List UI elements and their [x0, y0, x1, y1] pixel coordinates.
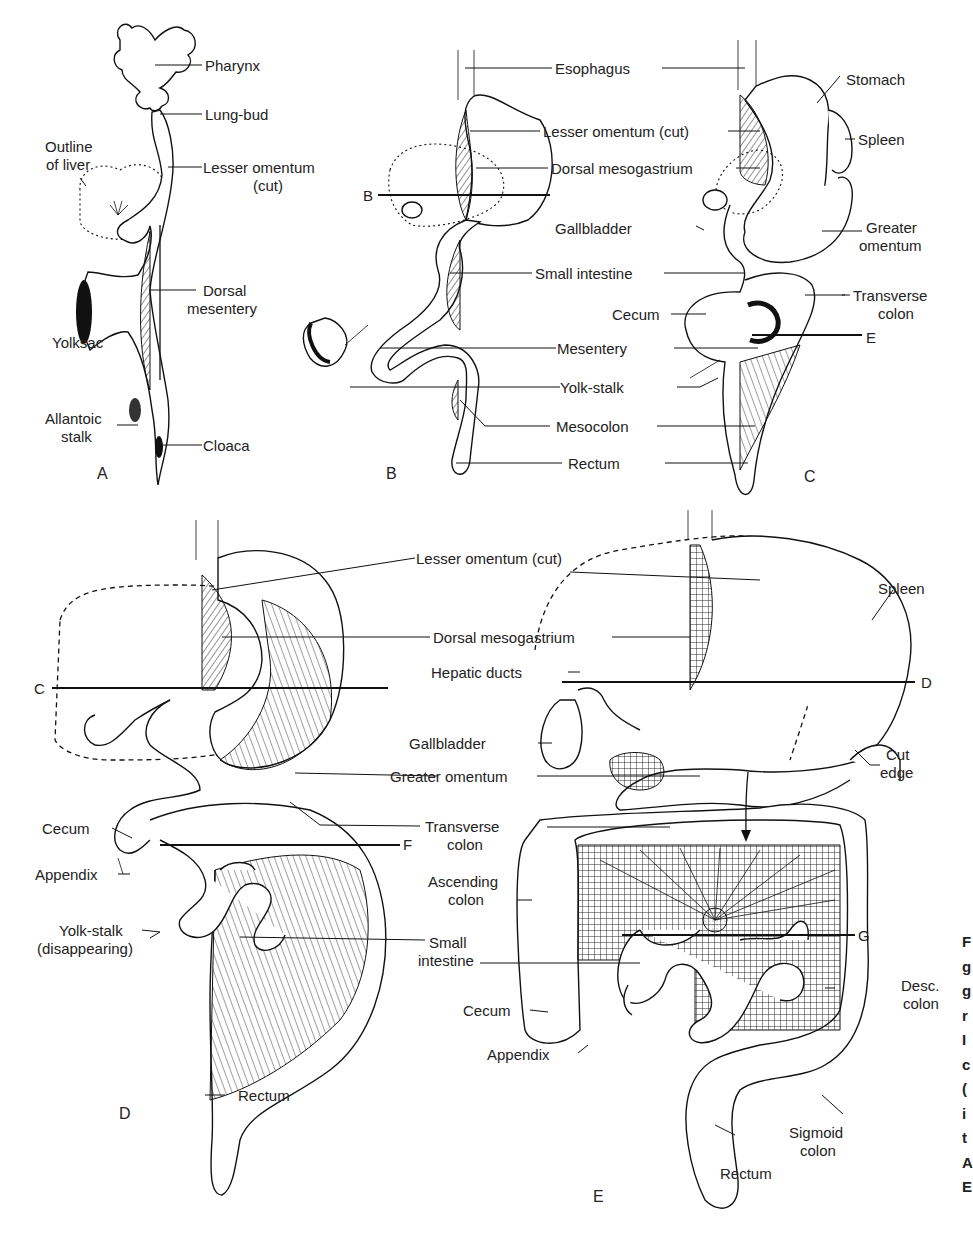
- label-ascending-colon-2: colon: [448, 891, 484, 908]
- label-pharynx: Pharynx: [205, 57, 260, 74]
- label-transverse-colon-c-1: Transverse: [853, 287, 927, 304]
- label-stomach: Stomach: [846, 71, 905, 88]
- label-lesser-omentum-a-2: (cut): [253, 177, 283, 194]
- label-mesocolon: Mesocolon: [556, 418, 629, 435]
- label-desc-colon-1: Desc.: [901, 977, 939, 994]
- label-cecum-c: Cecum: [612, 306, 660, 323]
- label-dorsal-mesogastrium-d: Dorsal mesogastrium: [433, 629, 575, 646]
- panel-b-drawing: [303, 50, 552, 474]
- label-hepatic-ducts: Hepatic ducts: [431, 664, 522, 681]
- panel-letter-a: A: [97, 465, 108, 483]
- label-appendix-e: Appendix: [487, 1046, 550, 1063]
- section-label-b: B: [363, 187, 373, 204]
- figure-caption-fragment: F g g r I c ( i t A E: [962, 930, 973, 1200]
- label-transverse-colon-d-2: colon: [447, 836, 483, 853]
- section-label-d-in-e: D: [921, 674, 932, 691]
- panel-letter-e: E: [593, 1188, 604, 1206]
- label-cut-edge-1: Cut: [886, 746, 909, 763]
- label-yolk-stalk-d-1: Yolk-stalk: [59, 922, 123, 939]
- label-cut-edge-2: edge: [880, 764, 913, 781]
- label-spleen-c: Spleen: [858, 131, 905, 148]
- label-small-intestine-b: Small intestine: [535, 265, 633, 282]
- section-label-e-in-c: E: [866, 329, 876, 346]
- label-dorsal-mesogastrium-b: Dorsal mesogastrium: [551, 160, 693, 177]
- section-label-g: G: [858, 927, 870, 944]
- label-gallbladder-e: Gallbladder: [409, 735, 486, 752]
- panel-e-drawing: [517, 510, 911, 1208]
- label-mesentery-b: Mesentery: [557, 340, 627, 357]
- label-esophagus: Esophagus: [555, 60, 630, 77]
- label-sigmoid-colon-2: colon: [800, 1142, 836, 1159]
- panel-letter-c: C: [804, 468, 816, 486]
- label-outline-of-liver-2: of liver: [46, 156, 90, 173]
- label-greater-omentum-c-1: Greater: [866, 219, 917, 236]
- label-lesser-omentum-a-1: Lesser omentum: [203, 159, 315, 176]
- label-desc-colon-2: colon: [903, 995, 939, 1012]
- panel-letter-d: D: [119, 1105, 131, 1123]
- label-transverse-colon-c-2: colon: [878, 305, 914, 322]
- section-label-f: F: [403, 836, 412, 853]
- label-lesser-omentum-d: Lesser omentum (cut): [416, 550, 562, 567]
- label-transverse-colon-d-1: Transverse: [425, 818, 499, 835]
- label-cecum-d: Cecum: [42, 820, 90, 837]
- label-cecum-e: Cecum: [463, 1002, 511, 1019]
- label-small-intestine-d-2: intestine: [418, 952, 474, 969]
- label-lung-bud: Lung-bud: [205, 106, 268, 123]
- label-sigmoid-colon-1: Sigmoid: [789, 1124, 843, 1141]
- panel-d-drawing: [55, 520, 386, 1195]
- label-gallbladder-b: Gallbladder: [555, 220, 632, 237]
- label-yolk-stalk-d-2: (disappearing): [37, 940, 133, 957]
- label-rectum-d: Rectum: [238, 1087, 290, 1104]
- label-ascending-colon-1: Ascending: [428, 873, 498, 890]
- label-rectum-e: Rectum: [720, 1165, 772, 1182]
- label-spleen-e: Spleen: [878, 580, 925, 597]
- label-outline-of-liver-1: Outline: [45, 138, 93, 155]
- label-allantoic-stalk-2: stalk: [61, 428, 92, 445]
- label-allantoic-stalk-1: Allantoic: [45, 410, 102, 427]
- label-lesser-omentum-b: Lesser omentum (cut): [543, 123, 689, 140]
- label-dorsal-mesentery-1: Dorsal: [203, 282, 246, 299]
- gut-development-figure: Pharynx Lung-bud Outline of liver Lesser…: [0, 0, 973, 1240]
- label-cloaca: Cloaca: [203, 437, 250, 454]
- section-label-c-in-d: C: [34, 680, 45, 697]
- label-yolk-stalk-b: Yolk-stalk: [560, 379, 624, 396]
- label-appendix-d: Appendix: [35, 866, 98, 883]
- panel-letter-b: B: [386, 465, 397, 483]
- label-rectum-b: Rectum: [568, 455, 620, 472]
- label-greater-omentum-d: Greater omentum: [390, 768, 508, 785]
- label-dorsal-mesentery-2: mesentery: [187, 300, 257, 317]
- label-yolksac: Yolksac: [52, 334, 103, 351]
- label-greater-omentum-c-2: omentum: [859, 237, 922, 254]
- label-small-intestine-d-1: Small: [429, 934, 467, 951]
